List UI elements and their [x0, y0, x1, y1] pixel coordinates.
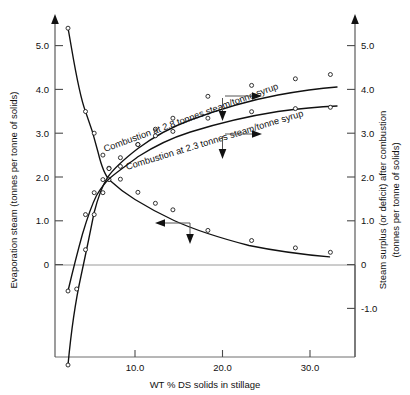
- curve-label-combustion-2-3: Combustion at 2.3 tonnes steam/tonne syr…: [125, 108, 305, 172]
- left-y-tick-label-2: 2.0: [36, 172, 49, 183]
- right-y-tick-label-3: 3.0: [361, 128, 374, 139]
- x-tick-marks: [135, 350, 310, 357]
- right-y-axis-arrowhead: [351, 14, 359, 24]
- x-tick-label-20: 20.0: [213, 362, 232, 373]
- left-y-axis-arrowhead: [51, 14, 59, 24]
- left-y-tick-label-3: 3.0: [36, 128, 49, 139]
- left-y-tick-labels: 5.0 4.0 3.0 2.0 1.0 0: [36, 40, 49, 270]
- left-y-tick-marks: [55, 46, 63, 265]
- chart-canvas: 5.0 4.0 3.0 2.0 1.0 0 5.0 4.0 3.0 2.0 1.…: [0, 0, 410, 395]
- right-y-tick-labels: 5.0 4.0 3.0 2.0 1.0 0 -1.0: [361, 40, 377, 314]
- left-y-axis-title: Evaporation steam (tonnes per tonne of s…: [8, 92, 19, 289]
- right-y-tick-label-4: 4.0: [361, 84, 374, 95]
- right-y-tick-label-0: 0: [361, 259, 366, 270]
- x-tick-label-10: 10.0: [126, 362, 145, 373]
- x-tick-labels: 10.0 20.0 30.0: [126, 362, 320, 373]
- right-y-tick-label-2: 2.0: [361, 172, 374, 183]
- x-axis-title: WT % DS solids in stillage: [150, 379, 261, 390]
- right-y-axis-title-line1: Steam surplus (or deficit) after combust…: [377, 111, 388, 289]
- right-y-tick-label-5: 5.0: [361, 40, 374, 51]
- x-tick-label-30: 30.0: [301, 362, 320, 373]
- curve-combustion-2-3: [68, 106, 337, 291]
- left-y-tick-label-1: 1.0: [36, 215, 49, 226]
- left-y-tick-label-0: 0: [44, 259, 49, 270]
- pointer-evaporation-steam: [155, 219, 194, 244]
- chart-figure: 5.0 4.0 3.0 2.0 1.0 0 5.0 4.0 3.0 2.0 1.…: [0, 0, 410, 395]
- left-y-tick-label-4: 4.0: [36, 84, 49, 95]
- left-y-tick-label-5: 5.0: [36, 40, 49, 51]
- right-y-tick-label-1: 1.0: [361, 215, 374, 226]
- right-y-tick-label-neg1: -1.0: [361, 303, 377, 314]
- right-y-axis-title-line2: (tonnes per tonne of solids): [390, 142, 401, 257]
- right-y-tick-marks: [347, 46, 355, 309]
